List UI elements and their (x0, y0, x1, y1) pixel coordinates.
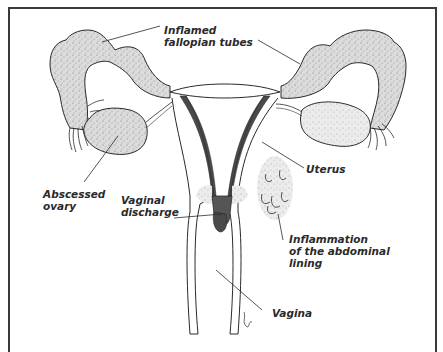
label-vaginal-discharge: Vaginal discharge (121, 194, 179, 218)
vaginal-opening-detail (244, 312, 252, 327)
label-vagina: Vagina (272, 307, 312, 319)
label-inflamed-fallopian-tubes: Inflamed fallopian tubes (164, 24, 253, 48)
label-uterus: Uterus (306, 163, 346, 175)
leader-fallopian-left (102, 26, 160, 42)
label-abscessed-ovary: Abscessed ovary (43, 188, 105, 212)
right-ovary (276, 102, 370, 146)
leader-fallopian-right (258, 40, 300, 64)
abdominal-lining-patch (257, 156, 293, 220)
left-ovary (84, 102, 172, 154)
label-abdominal-lining: Inflammation of the abdominal lining (289, 233, 390, 269)
